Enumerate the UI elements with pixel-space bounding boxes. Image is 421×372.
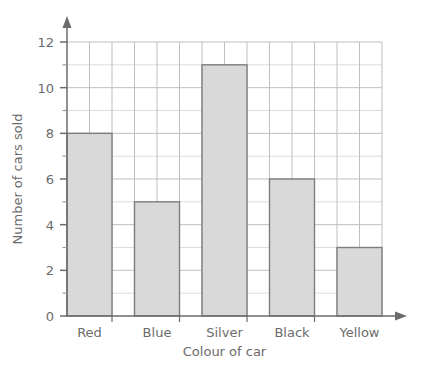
y-major-ticks xyxy=(60,42,67,316)
y-axis-title: Number of cars sold xyxy=(10,114,25,245)
cat-label-red: Red xyxy=(77,325,102,340)
y-tick-label-0: 0 xyxy=(46,309,54,324)
y-tick-label-6: 6 xyxy=(46,172,54,187)
y-tick-labels: 0 2 4 6 8 10 12 xyxy=(37,35,54,324)
y-tick-label-2: 2 xyxy=(46,263,54,278)
x-axis-title: Colour of car xyxy=(183,344,267,359)
bar-black[interactable] xyxy=(270,179,315,316)
x-axis-ticks xyxy=(112,316,315,322)
y-tick-label-4: 4 xyxy=(46,218,54,233)
bar-red[interactable] xyxy=(67,133,112,316)
y-axis-arrow xyxy=(63,16,72,28)
y-tick-label-10: 10 xyxy=(37,81,54,96)
cat-label-silver: Silver xyxy=(206,325,243,340)
bar-chart: 0 2 4 6 8 10 12 Red Blue Silver Black Ye… xyxy=(0,0,421,372)
cat-label-black: Black xyxy=(274,325,310,340)
bar-silver[interactable] xyxy=(202,65,247,316)
cat-label-blue: Blue xyxy=(143,325,172,340)
x-axis-arrow xyxy=(395,312,407,321)
chart-canvas: 0 2 4 6 8 10 12 Red Blue Silver Black Ye… xyxy=(0,0,421,372)
y-tick-label-12: 12 xyxy=(37,35,54,50)
bar-blue[interactable] xyxy=(135,202,180,316)
x-category-labels: Red Blue Silver Black Yellow xyxy=(77,325,380,340)
bars-group xyxy=(67,65,382,316)
y-tick-label-8: 8 xyxy=(46,126,54,141)
bar-yellow[interactable] xyxy=(337,248,382,317)
cat-label-yellow: Yellow xyxy=(338,325,379,340)
